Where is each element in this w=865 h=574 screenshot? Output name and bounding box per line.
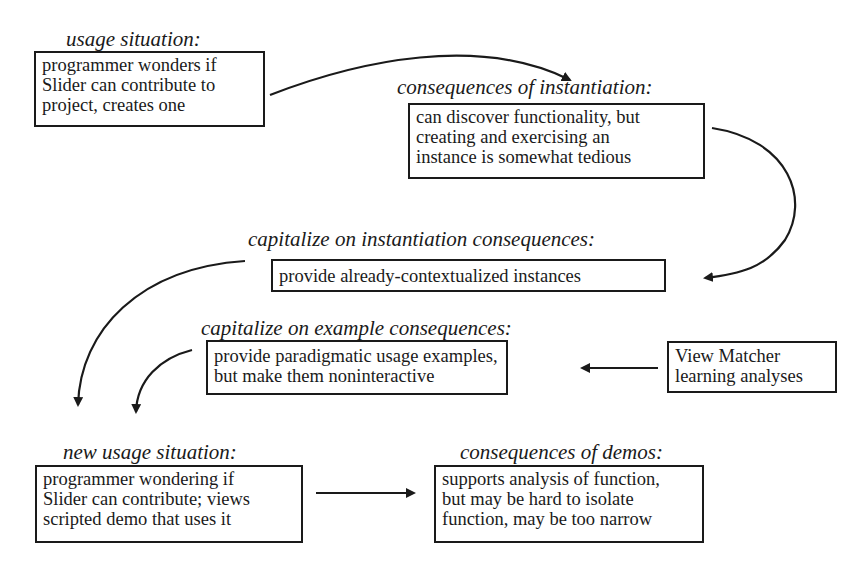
consequences-instantiation-heading: consequences of instantiation:	[397, 76, 652, 98]
new-usage-box: programmer wondering if Slider can contr…	[35, 465, 303, 543]
consequences-demos-box: supports analysis of function, but may b…	[434, 465, 704, 543]
box-line: supports analysis of function,	[442, 469, 696, 489]
box-line: creating and exercising an	[416, 127, 697, 147]
view-matcher-box: View Matcher learning analyses	[667, 341, 837, 393]
box-line: instance is somewhat tedious	[416, 147, 697, 167]
consequences-demos-heading: consequences of demos:	[460, 441, 663, 463]
box-line: View Matcher	[675, 346, 829, 366]
capitalize-example-heading: capitalize on example consequences:	[201, 317, 512, 339]
box-line: but may be hard to isolate	[442, 489, 696, 509]
box-line: provide paradigmatic usage examples,	[214, 346, 500, 366]
box-line: Slider can contribute to	[42, 75, 257, 95]
box-line: provide already-contextualized instances	[279, 266, 658, 286]
box-line: programmer wonders if	[42, 55, 257, 75]
capitalize-example-box: provide paradigmatic usage examples, but…	[206, 340, 508, 395]
usage-situation-box: programmer wonders if Slider can contrib…	[34, 51, 265, 127]
box-line: programmer wondering if	[43, 469, 295, 489]
new-usage-heading: new usage situation:	[63, 441, 237, 463]
box-line: but make them noninteractive	[214, 366, 500, 386]
box-line: function, may be too narrow	[442, 509, 696, 529]
capitalize-instantiation-heading: capitalize on instantiation consequences…	[248, 228, 595, 250]
arrow-consequences-to-capitalize	[705, 128, 795, 278]
usage-situation-heading: usage situation:	[66, 28, 201, 50]
capitalize-instantiation-box: provide already-contextualized instances	[271, 259, 666, 292]
box-line: Slider can contribute; views	[43, 489, 295, 509]
box-line: learning analyses	[675, 366, 829, 386]
arrow-capitalize-example-to-new-usage	[136, 350, 192, 412]
box-line: project, creates one	[42, 95, 257, 115]
consequences-instantiation-box: can discover functionality, but creating…	[408, 103, 705, 179]
box-line: can discover functionality, but	[416, 107, 697, 127]
box-line: scripted demo that uses it	[43, 509, 295, 529]
